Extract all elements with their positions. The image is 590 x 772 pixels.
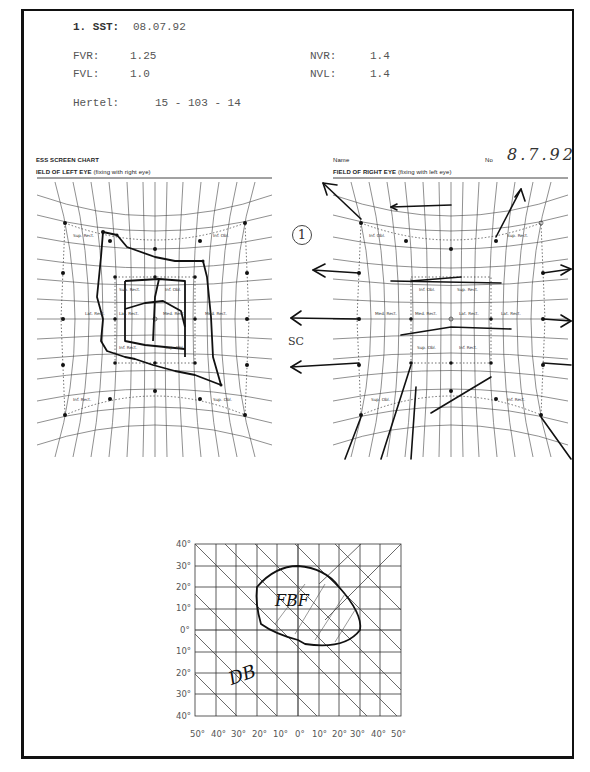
svg-text:Inf. Rect.: Inf. Rect. [459, 345, 477, 350]
svg-text:Inf. Rect.: Inf. Rect. [507, 397, 525, 402]
left-field-heading: IELD OF LEFT EYE (fixing with right eye) [36, 169, 151, 175]
nvl-value: 1.4 [370, 68, 390, 80]
hess-chart-title: ESS SCREEN CHART [36, 157, 99, 163]
fbf-label: FBF [274, 591, 310, 610]
fvr-value: 1.25 [130, 50, 156, 62]
svg-text:Lat. Rect.: Lat. Rect. [85, 311, 105, 316]
right-eye-hess-grid: Inf. Obl. Sup. Rect. Inf. Obl. Sup. Rect… [331, 177, 571, 462]
svg-text:Lat. Rect.: Lat. Rect. [119, 311, 139, 316]
handwritten-date: 8.7.92 [507, 145, 576, 164]
svg-text:Inf. Obl.: Inf. Obl. [419, 287, 435, 292]
svg-text:Sup. Rect.: Sup. Rect. [73, 233, 94, 238]
svg-text:Med. Rect.: Med. Rect. [163, 311, 185, 316]
sst-value: 08.07.92 [133, 21, 186, 33]
svg-text:Sup. Obl.: Sup. Obl. [165, 345, 184, 350]
svg-text:Sup. Obl.: Sup. Obl. [213, 397, 232, 402]
svg-text:Sup. Rect.: Sup. Rect. [119, 287, 140, 292]
db-label: DB [224, 660, 258, 690]
nvr-value: 1.4 [370, 50, 390, 62]
svg-text:Inf. Obl.: Inf. Obl. [369, 233, 385, 238]
svg-text:Sup. Rect.: Sup. Rect. [507, 233, 528, 238]
nvr-label: NVR: [310, 50, 336, 62]
svg-text:Sup. Obl.: Sup. Obl. [417, 345, 436, 350]
fvl-value: 1.0 [130, 68, 150, 80]
svg-text:Lat. Rect.: Lat. Rect. [501, 311, 521, 316]
left-eye-hess-grid: Sup. Rect. Inf. Obl. Sup. Rect. Inf. Obl… [35, 177, 275, 462]
svg-text:Med. Rect.: Med. Rect. [415, 311, 437, 316]
hertel-value: 15 - 103 - 14 [155, 97, 241, 109]
annotation-circle-1: 1 [292, 225, 312, 245]
svg-text:Inf. Obl.: Inf. Obl. [165, 287, 181, 292]
nvl-label: NVL: [310, 68, 336, 80]
name-label: Name [333, 157, 349, 163]
fvl-label: FVL: [73, 68, 99, 80]
no-label: No [485, 157, 493, 163]
fvr-label: FVR: [73, 50, 99, 62]
svg-text:Med. Rect.: Med. Rect. [375, 311, 397, 316]
hertel-label: Hertel: [73, 97, 119, 109]
svg-text:Sup. Rect.: Sup. Rect. [457, 287, 478, 292]
annotation-sc: SC [288, 335, 304, 348]
sst-label: 1. SST: [73, 21, 119, 33]
binocular-field-grid: FBF DB [195, 544, 405, 722]
svg-text:Sup. Obl.: Sup. Obl. [371, 397, 390, 402]
svg-text:Med. Rect.: Med. Rect. [205, 311, 227, 316]
svg-text:Inf. Obl.: Inf. Obl. [213, 233, 229, 238]
right-field-heading: FIELD OF RIGHT EYE (fixing with left eye… [333, 169, 451, 175]
svg-text:Inf. Rect.: Inf. Rect. [73, 397, 91, 402]
svg-text:Lat. Rect.: Lat. Rect. [459, 311, 479, 316]
svg-text:Inf. Rect.: Inf. Rect. [119, 345, 137, 350]
